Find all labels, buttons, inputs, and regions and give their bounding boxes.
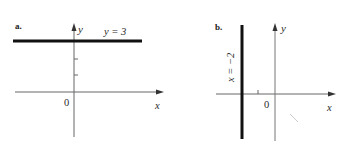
y-axis-label: y xyxy=(280,22,286,34)
equation-label: y = 3 xyxy=(103,26,126,37)
panel-a: a. y y = 3 0 x xyxy=(13,21,164,137)
panel-a-label: a. xyxy=(15,21,22,31)
x-axis-arrow-icon xyxy=(156,90,164,95)
x-axis-label: x xyxy=(326,102,332,113)
y-axis-label: y xyxy=(77,23,83,35)
x-axis-arrow-icon xyxy=(328,92,336,97)
figure: a. y y = 3 0 x b. y x = −2 0 xyxy=(0,0,341,147)
origin-label: 0 xyxy=(64,97,69,108)
y-axis-arrow-icon xyxy=(273,23,278,31)
panel-b: b. y x = −2 0 x xyxy=(215,22,336,141)
origin-label: 0 xyxy=(264,99,269,110)
equation-label: x = −2 xyxy=(225,52,236,83)
stray-mark xyxy=(290,114,298,122)
panel-b-label: b. xyxy=(215,22,222,32)
x-axis-label: x xyxy=(154,100,160,111)
y-axis-arrow-icon xyxy=(72,23,77,31)
